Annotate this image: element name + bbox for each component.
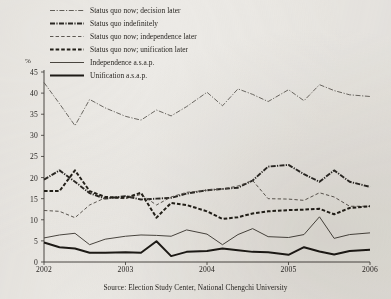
figure-page: Status quo now; decision later Status qu… (0, 0, 391, 299)
series-line-0 (44, 83, 370, 126)
chart-plot-area (0, 0, 391, 299)
series-line-4 (44, 217, 370, 245)
figure-source-caption: Source: Election Study Center, National … (0, 283, 391, 292)
series-line-2 (44, 181, 370, 218)
series-line-1 (44, 165, 370, 200)
